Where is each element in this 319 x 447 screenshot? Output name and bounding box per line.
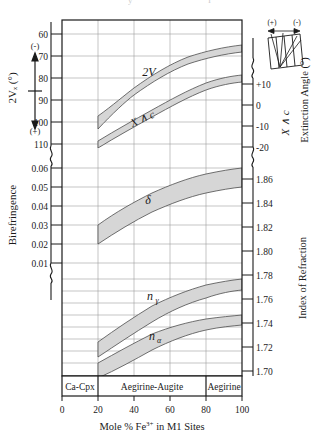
label-delta: δ: [145, 193, 151, 207]
tick-2v-70: 70: [39, 52, 49, 62]
right-axis-spine: [252, 38, 254, 376]
inset-label-plus: (+): [267, 18, 277, 27]
right-bottom-tick-labels: 1.86 1.84 1.82 1.80 1.78 1.76 1.74 1.72 …: [256, 175, 273, 377]
tick-n-186: 1.86: [256, 175, 273, 185]
label-n-gamma: n γ: [147, 289, 159, 305]
axis-title-2vx: 2Vₓ (°): [6, 72, 19, 103]
tick-x-40: 40: [129, 405, 139, 415]
tick-ext-m10: -10: [256, 122, 269, 132]
tick-x-0: 0: [60, 405, 65, 415]
left-top-ticks: [51, 34, 62, 144]
label-2v: 2V: [142, 65, 157, 79]
tick-2v-80: 80: [39, 74, 49, 84]
left-mid-ticks: [51, 168, 62, 263]
left-top-axis-title-group: 2Vₓ (°) (-) (+): [6, 41, 42, 136]
composition-segment-aegirine: Aegirine: [207, 382, 240, 392]
chart-svg: 60 70 80 90 100 110 0.06 0.05 0.04 0.03 …: [0, 0, 319, 447]
tick-ext-m20: -20: [256, 143, 269, 153]
composition-segment-aegirine-augite: Aegirine-Augite: [121, 382, 183, 392]
tick-bi-001: 0.01: [31, 259, 48, 269]
axis-sublabel-x-wedge-c: X ∧ c: [279, 110, 291, 136]
x-axis-title: Mole % Fe3+ in M1 Sites: [99, 420, 204, 432]
tick-2v-60: 60: [39, 30, 49, 40]
x-axis-ticks: [62, 396, 242, 401]
tick-x-20: 20: [93, 405, 103, 415]
tick-x-80: 80: [201, 405, 211, 415]
x-title-sup: 3+: [146, 420, 154, 428]
axis-title-index-of-refraction: Index of Refraction: [297, 236, 308, 319]
tick-n-170: 1.70: [256, 367, 273, 377]
figure-root: 60 70 80 90 100 110 0.06 0.05 0.04 0.03 …: [0, 0, 319, 447]
tick-n-176: 1.76: [256, 295, 273, 305]
tick-bi-003: 0.03: [31, 221, 48, 231]
tick-n-180: 1.80: [256, 247, 273, 257]
tick-n-178: 1.78: [256, 271, 273, 281]
tick-n-184: 1.84: [256, 199, 273, 209]
composition-bar: Ca-Cpx Aegirine-Augite Aegirine: [62, 376, 242, 396]
tick-ext-0: 0: [256, 101, 261, 111]
left-axis-spine: [50, 22, 52, 300]
svg-text:n: n: [147, 289, 153, 303]
tick-x-100: 100: [235, 405, 250, 415]
tick-n-172: 1.72: [256, 343, 273, 353]
tick-ext-p10: +10: [256, 80, 271, 90]
axis-title-extinction-angle: Extinction Angle (°): [299, 57, 311, 143]
left-mid-tick-labels: 0.06 0.05 0.04 0.03 0.02 0.01: [31, 164, 48, 269]
x-title-post: in M1 Sites: [154, 421, 205, 432]
tick-2v-110: 110: [34, 140, 48, 150]
tick-n-174: 1.74: [256, 319, 273, 329]
x-axis-tick-labels: 0 20 40 60 80 100: [60, 405, 250, 415]
tick-x-60: 60: [165, 405, 175, 415]
tick-bi-002: 0.02: [31, 240, 48, 250]
label-x-wedge-c: X ∧ c: [128, 108, 157, 130]
tick-bi-004: 0.04: [31, 202, 48, 212]
inset-label-minus: (-): [293, 18, 301, 27]
tick-2v-90: 90: [39, 96, 49, 106]
tick-bi-006: 0.06: [31, 164, 48, 174]
sign-negative-label: (-): [31, 41, 40, 51]
right-top-ticks: [242, 84, 253, 147]
right-bottom-ticks: [242, 179, 253, 371]
inset-crystal-diagram: (+) (-): [267, 18, 303, 69]
svg-text:Mole % Fe3+ in M1 Sites: Mole % Fe3+ in M1 Sites: [99, 420, 204, 432]
tick-bi-005: 0.05: [31, 183, 48, 193]
tick-n-182: 1.82: [256, 223, 273, 233]
x-title-pre: Mole % Fe: [99, 421, 146, 432]
right-top-tick-labels: +10 0 -10 -20: [256, 80, 271, 153]
axis-title-birefringence: Birefringence: [6, 185, 18, 246]
svg-text:n: n: [149, 329, 155, 343]
composition-segment-ca-cpx: Ca-Cpx: [65, 382, 95, 392]
